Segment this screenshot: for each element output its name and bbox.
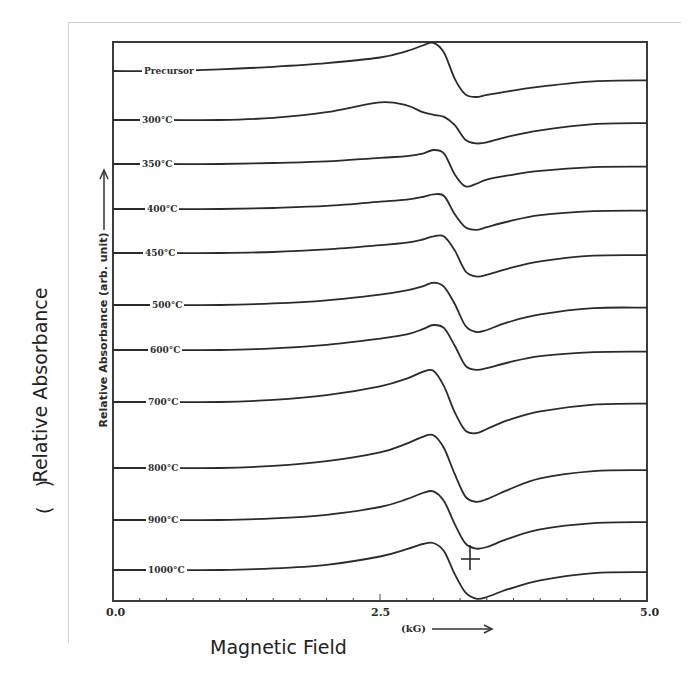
series-label: 1000°C [146, 565, 187, 575]
outer-y-axis-label: Relative Absorbance [29, 288, 51, 483]
plot-frame [113, 42, 647, 601]
outer-x-axis-label: Magnetic Field [210, 636, 347, 658]
trace-700c [113, 370, 647, 434]
trace-600c [113, 325, 647, 370]
trace-1000c [113, 542, 647, 598]
y-unit-arrow [100, 170, 108, 230]
trace-450c [113, 235, 647, 276]
x-axis-unit: (kG) [401, 623, 426, 634]
x-tick-2-5: 2.5 [371, 606, 390, 619]
x-unit-arrow [432, 625, 492, 633]
series-label: 800°C [146, 463, 180, 473]
series-label: 900°C [146, 515, 180, 525]
spectra-traces [113, 43, 647, 599]
trace-300c [113, 102, 647, 144]
x-tick-5: 5.0 [640, 606, 659, 619]
outer-y-axis-unit: ( ) [32, 480, 56, 515]
series-label: 600°C [148, 345, 182, 355]
trace-800c [113, 434, 647, 501]
trace-350c [113, 150, 647, 187]
series-label: Precursor [142, 66, 196, 76]
series-label: 450°C [143, 248, 177, 258]
series-label: 350°C [140, 159, 174, 169]
series-label: 700°C [146, 397, 180, 407]
x-tick-0: 0.0 [106, 606, 125, 619]
trace-900c [113, 491, 647, 549]
trace-400c [113, 194, 647, 230]
trace-500c [113, 283, 647, 333]
series-label: 300°C [140, 115, 174, 125]
x-axis-ticks [113, 594, 647, 601]
series-label: 400°C [145, 204, 179, 214]
series-label: 500°C [150, 300, 184, 310]
inner-y-axis-label: Relative Absorbance (arb. unit) [97, 233, 110, 428]
